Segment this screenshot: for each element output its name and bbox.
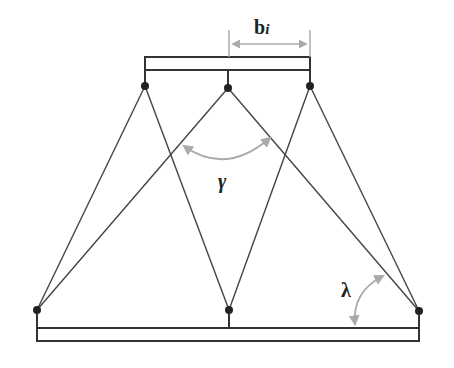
joint-top-center <box>224 84 232 92</box>
joint-bottom-left <box>33 306 41 314</box>
top-platform <box>145 57 310 88</box>
label-bi: bi <box>254 16 269 39</box>
label-lambda: λ <box>341 279 351 302</box>
joint-top-right <box>306 82 314 90</box>
angle-gamma-arc <box>184 138 270 159</box>
label-gamma: γ <box>218 170 226 193</box>
bottom-base <box>37 310 419 341</box>
joint-bottom-right <box>415 307 423 315</box>
joint-bottom-center <box>225 306 233 314</box>
angle-lambda-arc <box>355 276 383 324</box>
truss-diagram <box>0 0 454 368</box>
truss-members <box>37 86 419 311</box>
dimension-bi <box>229 30 310 57</box>
joint-top-left <box>141 82 149 90</box>
